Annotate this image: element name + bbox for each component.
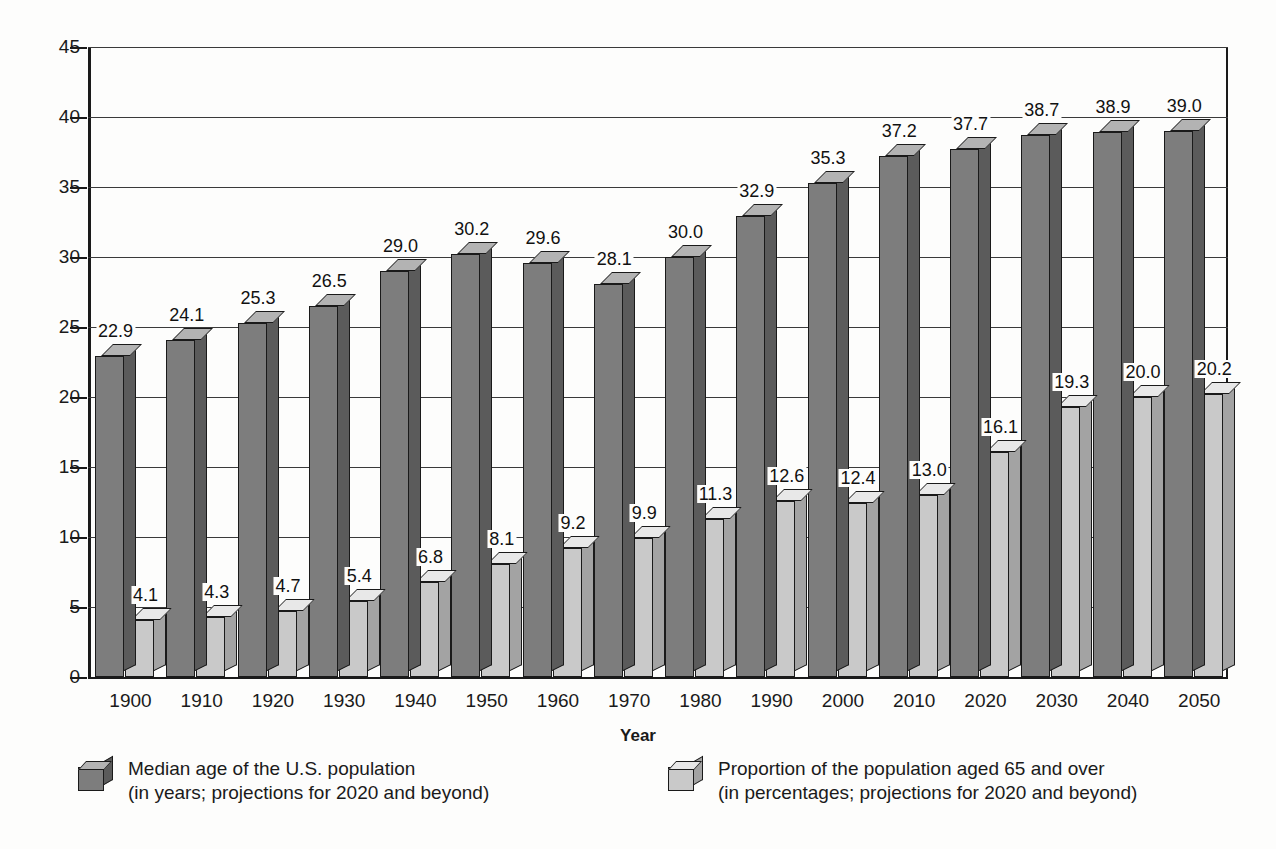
bar-front-face xyxy=(380,271,409,677)
bar-value-label: 30.2 xyxy=(452,220,491,238)
chart-legend: Median age of the U.S. population(in yea… xyxy=(78,757,1198,827)
bar-value-label: 24.1 xyxy=(167,306,206,324)
bar-value-label: 28.1 xyxy=(595,250,634,268)
bar-side-face xyxy=(480,242,492,671)
legend-label-line2: (in years; projections for 2020 and beyo… xyxy=(128,781,489,805)
bar-value-label: 11.3 xyxy=(697,485,735,503)
bar-side-face xyxy=(195,327,207,671)
bar-front-face xyxy=(95,356,124,677)
bar-side-face xyxy=(724,507,736,671)
legend-label-line1: Proportion of the population aged 65 and… xyxy=(718,757,1137,781)
bar-side-face xyxy=(124,344,136,671)
bar-2040-series1 xyxy=(1093,132,1122,677)
bar-1980-series1 xyxy=(665,257,694,677)
bar-front-face xyxy=(309,306,338,677)
y-tick-mark xyxy=(70,257,87,259)
y-tick-mark xyxy=(70,327,87,329)
bar-side-face xyxy=(938,483,950,671)
bar-value-label: 4.7 xyxy=(273,577,302,595)
bar-side-face xyxy=(623,271,635,671)
bar-side-face xyxy=(653,526,665,671)
bar-value-label: 20.2 xyxy=(1195,360,1234,378)
bar-1940-series1 xyxy=(380,271,409,677)
bar-side-face xyxy=(267,311,279,671)
y-tick-mark xyxy=(70,677,87,679)
bar-front-face xyxy=(879,156,908,677)
bar-value-label: 37.2 xyxy=(880,122,919,140)
bar-side-face xyxy=(694,245,706,671)
bar-value-label: 9.9 xyxy=(630,504,659,522)
bar-front-face xyxy=(238,323,267,677)
bar-side-face xyxy=(1223,382,1235,671)
bar-side-face xyxy=(338,294,350,671)
bar-top-face xyxy=(1027,123,1068,135)
y-tick-mark xyxy=(70,397,87,399)
legend-swatch-proportion-65-plus xyxy=(668,761,702,791)
bar-front-face xyxy=(736,216,765,677)
bar-value-label: 4.3 xyxy=(202,583,231,601)
bar-side-face xyxy=(795,488,807,671)
legend-label: Median age of the U.S. population(in yea… xyxy=(128,757,489,806)
bar-value-label: 25.3 xyxy=(238,289,277,307)
bar-front-face xyxy=(594,284,623,677)
bar-1900-series1 xyxy=(95,356,124,677)
bar-value-label: 6.8 xyxy=(416,548,445,566)
bar-front-face xyxy=(1164,131,1193,677)
bar-side-face xyxy=(1009,439,1021,671)
bar-value-label: 38.7 xyxy=(1022,101,1061,119)
bar-front-face xyxy=(665,257,694,677)
bar-top-face xyxy=(742,204,783,216)
bar-front-face xyxy=(1021,135,1050,677)
bar-front-face xyxy=(451,254,480,677)
legend-entry-2: Proportion of the population aged 65 and… xyxy=(668,757,1137,806)
legend-label-line1: Median age of the U.S. population xyxy=(128,757,489,781)
bar-value-label: 26.5 xyxy=(310,272,349,290)
bar-2000-series1 xyxy=(808,183,837,677)
bar-1920-series1 xyxy=(238,323,267,677)
bar-side-face xyxy=(439,570,451,671)
bar-front-face xyxy=(950,149,979,677)
bar-2010-series1 xyxy=(879,156,908,677)
bar-value-label: 32.9 xyxy=(737,182,776,200)
bar-value-label: 29.6 xyxy=(523,229,562,247)
bar-1910-series1 xyxy=(166,340,195,677)
bar-side-face xyxy=(368,589,380,671)
bar-1960-series1 xyxy=(523,263,552,677)
bar-value-label: 8.1 xyxy=(487,530,516,548)
bar-value-label: 20.0 xyxy=(1123,363,1162,381)
bar-1930-series1 xyxy=(309,306,338,677)
bar-2050-series1 xyxy=(1164,131,1193,677)
bar-1990-series1 xyxy=(736,216,765,677)
bar-side-face xyxy=(552,250,564,671)
bar-1950-series1 xyxy=(451,254,480,677)
legend-entry-1: Median age of the U.S. population(in yea… xyxy=(78,757,489,806)
bar-side-face xyxy=(1050,123,1062,671)
bar-front-face xyxy=(1093,132,1122,677)
bar-side-face xyxy=(867,491,879,671)
bar-value-label: 29.0 xyxy=(381,237,420,255)
bar-value-label: 39.0 xyxy=(1165,97,1204,115)
bar-value-label: 13.0 xyxy=(910,461,949,479)
bar-value-label: 38.9 xyxy=(1093,98,1132,116)
bar-front-face xyxy=(523,263,552,677)
plot-area: 22.94.124.14.325.34.726.55.429.06.830.28… xyxy=(88,47,1228,677)
legend-label: Proportion of the population aged 65 and… xyxy=(718,757,1137,806)
y-tick-mark xyxy=(70,47,87,49)
bar-side-face xyxy=(1080,395,1092,671)
bar-side-face xyxy=(510,551,522,671)
y-tick-mark xyxy=(70,117,87,119)
bar-value-label: 30.0 xyxy=(666,223,705,241)
bar-1970-series1 xyxy=(594,284,623,677)
bar-front-face xyxy=(166,340,195,677)
y-tick-mark xyxy=(70,467,87,469)
bar-top-face xyxy=(457,242,498,254)
gridline xyxy=(88,677,1228,679)
y-tick-mark xyxy=(70,187,87,189)
legend-swatch-median-age xyxy=(78,761,112,791)
legend-label-line2: (in percentages; projections for 2020 an… xyxy=(718,781,1137,805)
gridline xyxy=(88,47,1228,48)
bar-side-face xyxy=(582,536,594,671)
population-age-chart: 051015202530354045 22.94.124.14.325.34.7… xyxy=(0,0,1276,849)
bar-value-label: 12.4 xyxy=(838,469,877,487)
bar-side-face xyxy=(1152,385,1164,671)
